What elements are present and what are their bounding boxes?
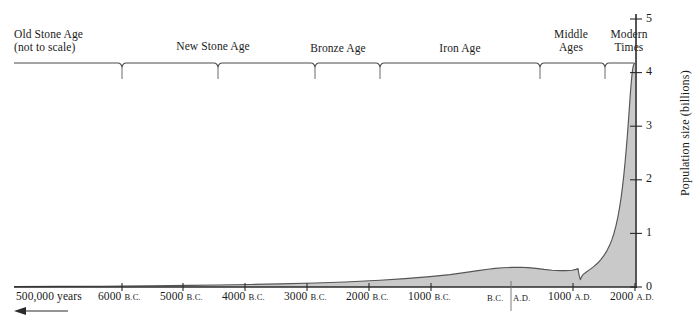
ytick-label-0: 0 [646,279,652,294]
ytick-label-1: 1 [646,225,652,240]
xtick-label-500000-years: 500,000 years [16,290,82,302]
xtick-label-5000-bc: 5000 B.C. [160,290,203,302]
ytick-label-3: 3 [646,118,652,133]
xtick-label-ad-boundary: A.D. [513,291,531,303]
ytick-label-4: 4 [646,64,652,79]
xtick-label-4000-bc: 4000 B.C. [222,290,265,302]
xtick-label-1000-bc: 1000 B.C. [408,290,451,302]
xtick-label-1000-ad: 1000 A.D. [548,290,592,302]
xtick-label-2000-bc: 2000 B.C. [346,290,389,302]
xtick-label-bc-boundary: B.C. [487,291,504,303]
y-axis-title: Population size (billions) [678,70,693,196]
xtick-label-6000-bc: 6000 B.C. [98,290,141,302]
time-arrow-icon [14,307,68,315]
era-bracket [14,63,634,79]
population-curve [14,63,635,287]
ytick-label-5: 5 [646,11,652,26]
ytick-label-2: 2 [646,171,652,186]
xtick-label-3000-bc: 3000 B.C. [284,290,327,302]
